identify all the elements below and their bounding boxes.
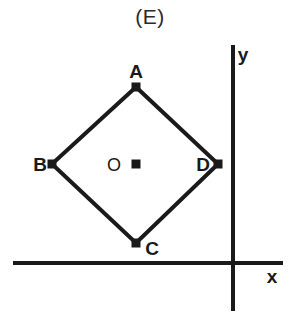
vertex-label-d: D — [196, 154, 210, 175]
vertex-label-b: B — [33, 154, 47, 175]
vertex-label-c: C — [145, 238, 159, 259]
vertex-dot-c — [132, 239, 141, 248]
x-axis-label: x — [267, 266, 278, 287]
y-axis-label: y — [238, 44, 249, 65]
figure-root: (E) A B C D O y x — [0, 0, 300, 315]
center-label-o: O — [107, 155, 121, 175]
geometry-diagram: A B C D O y x — [0, 0, 300, 315]
center-dot-o — [132, 160, 141, 169]
vertex-dot-d — [214, 160, 223, 169]
vertex-label-a: A — [129, 61, 143, 82]
vertex-dot-b — [48, 160, 57, 169]
vertex-dot-a — [132, 83, 141, 92]
